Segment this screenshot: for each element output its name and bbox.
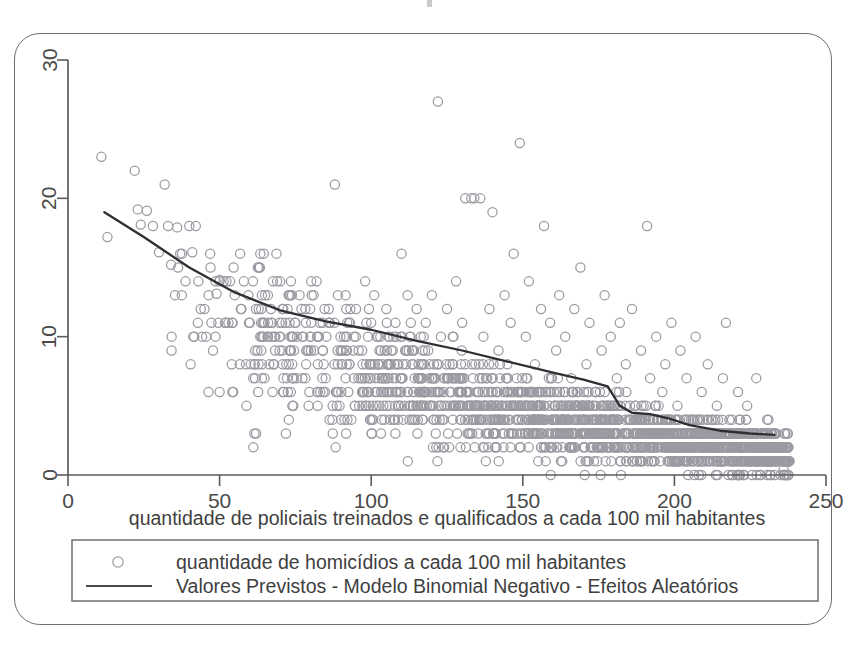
scatter-point [330,180,339,189]
scatter-point [521,332,530,341]
scatter-point [494,346,503,355]
scatter-point [721,318,730,327]
plot-area [97,97,794,480]
scatter-point [536,304,545,313]
scatter-point [452,277,461,286]
scatter-point [281,429,290,438]
scatter-point [524,277,533,286]
scatter-point [188,248,197,257]
scatter-point [621,360,630,369]
scatter-point [600,291,609,300]
scatter-point [585,318,594,327]
scatter-point [204,387,213,396]
scatter-point [576,263,585,272]
legend-item-label-scatter: quantidade de homicídios a cada 100 mil … [176,551,626,573]
scatter-point [456,443,465,452]
scatter-point [301,318,310,327]
scatter-point [718,374,727,383]
scatter-point [331,443,340,452]
scatter-point [561,332,570,341]
scatter-point [494,457,503,466]
scatter-point [636,346,645,355]
scatter-point [431,429,440,438]
scatter-point [555,291,564,300]
scatter-point [206,249,215,258]
scatter-point [173,223,182,232]
scatter-point [509,249,518,258]
scatter-point [673,401,682,410]
scatter-point [312,277,321,286]
scatter-point [743,401,752,410]
scatter-point [500,291,509,300]
scatter-point [186,360,195,369]
scatter-point [421,318,430,327]
scatter-point [652,332,661,341]
scatter-point [191,221,200,230]
scatter-point [207,318,216,327]
legend: quantidade de homicídios a cada 100 mil … [72,540,818,601]
scatter-point [691,332,700,341]
scatter-point [643,221,652,230]
scatter-point [391,429,400,438]
scatter-point [458,318,467,327]
y-tick-group: 0102030 [38,48,69,481]
scatter-point [348,346,357,355]
scatter-point [254,387,263,396]
scatter-point [413,429,422,438]
scatter-point [661,360,670,369]
scatter-point [442,304,451,313]
scatter-point [552,346,561,355]
scatter-point [313,360,322,369]
scatter-point [142,206,151,215]
scatter-point [248,277,257,286]
scatter-point [461,443,470,452]
scatter-point [418,346,427,355]
scatter-chart: 0102030 050100150200250 quantidade de po… [0,0,862,651]
scatter-point [449,332,458,341]
scatter-point [286,277,295,286]
scatter-point [712,401,721,410]
scatter-point [615,318,624,327]
scatter-point [211,332,220,341]
y-tick-label: 0 [38,469,61,481]
x-tick-label: 0 [62,489,74,512]
x-tick-label: 250 [808,489,843,512]
scatter-point [284,415,293,424]
scatter-point [229,263,238,272]
scatter-point [318,346,327,355]
scatter-point [382,304,391,313]
scatter-point [506,443,515,452]
y-axis: 0102030 [38,48,69,481]
scatter-point [148,221,157,230]
scatter-point [194,277,203,286]
scatter-point [302,360,311,369]
scatter-point [742,415,751,424]
scatter-point [481,457,490,466]
scatter-point [382,318,391,327]
scatter-point [268,387,277,396]
scatter-point [658,387,667,396]
scatter-point [363,332,372,341]
scatter-point [433,457,442,466]
scatter-point [97,152,106,161]
scatter-point [597,346,606,355]
scatter-point [290,318,299,327]
scatter-point [342,429,351,438]
scatter-point [328,429,337,438]
scatter-point [208,346,217,355]
scatter-point [476,194,485,203]
scatter-point [370,291,379,300]
scatter-point [570,304,579,313]
scatter-point [167,346,176,355]
scatter-point [364,304,373,313]
scatter-point [752,374,761,383]
scatter-point [607,457,616,466]
scatter-point [697,387,706,396]
scatter-point [433,97,442,106]
legend-item-label-line: Valores Previstos - Modelo Binomial Nega… [176,575,738,597]
scatter-point [193,318,202,327]
scatter-point [361,277,370,286]
scatter-point [703,360,712,369]
scatter-point [391,318,400,327]
scatter-point [181,277,190,286]
